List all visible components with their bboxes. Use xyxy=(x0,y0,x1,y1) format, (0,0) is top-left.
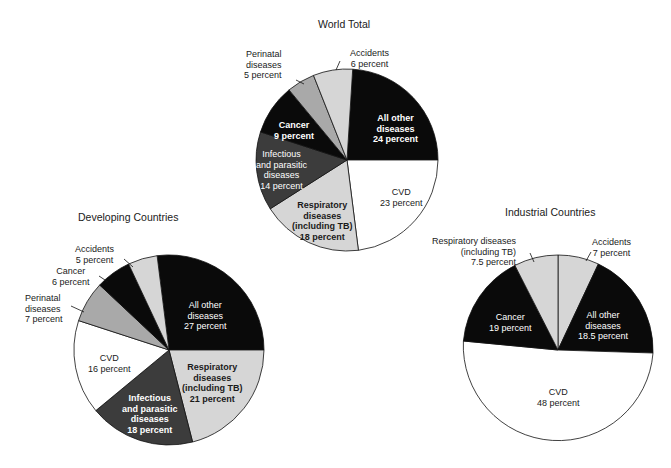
label-world-respiratory: Respiratory diseases (including TB) 18 p… xyxy=(292,200,353,242)
label-dev-cvd: CVD 16 percent xyxy=(88,353,131,374)
label-world-cvd: CVD 23 percent xyxy=(380,187,423,208)
chart-title-world-total: World Total xyxy=(318,18,370,30)
label-world-accidents: Accidents 6 percent xyxy=(350,48,389,69)
pie-industrial-countries xyxy=(463,252,653,441)
label-ind-cvd: CVD 48 percent xyxy=(537,387,580,408)
label-world-all-other: All other diseases 24 percent xyxy=(373,113,418,145)
label-world-perinatal: Perinatal diseases 5 percent xyxy=(244,49,282,81)
label-dev-respiratory: Respiratory diseases (including TB) 21 p… xyxy=(182,362,243,404)
label-ind-accidents: Accidents 7 percent xyxy=(592,237,631,258)
label-world-infectious: Infectious and parasitic diseases 14 per… xyxy=(256,149,307,191)
label-dev-perinatal: Perinatal diseases 7 percent xyxy=(25,293,63,325)
label-ind-cancer: Cancer 19 percent xyxy=(489,312,532,333)
leader-line xyxy=(71,306,84,312)
label-dev-infectious: Infectious and parasitic diseases 18 per… xyxy=(122,393,178,435)
leader-line xyxy=(336,61,340,70)
chart-title-developing-countries: Developing Countries xyxy=(78,211,178,223)
label-dev-all-other: All other diseases 27 percent xyxy=(184,300,227,332)
label-world-cancer: Cancer 9 percent xyxy=(274,120,314,141)
chart-title-industrial-countries: Industrial Countries xyxy=(505,206,595,218)
label-ind-respiratory: Respiratory diseases (including TB) 7.5 … xyxy=(432,236,516,268)
label-ind-all-other: All other diseases 18.5 percent xyxy=(578,310,628,342)
label-dev-cancer: Cancer 6 percent xyxy=(52,266,90,287)
label-dev-accidents: Accidents 5 percent xyxy=(75,244,114,265)
